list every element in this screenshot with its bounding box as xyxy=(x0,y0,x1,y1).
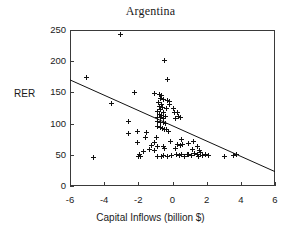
data-point xyxy=(173,146,178,151)
data-point xyxy=(162,58,167,63)
data-point xyxy=(166,129,171,134)
x-tick-label: 2 xyxy=(197,194,217,205)
data-point xyxy=(162,146,167,151)
x-tick-label: -2 xyxy=(128,194,148,205)
data-point xyxy=(91,155,96,160)
data-point xyxy=(109,101,114,106)
data-point xyxy=(185,152,190,157)
data-point xyxy=(180,142,185,147)
x-tick-label: 6 xyxy=(265,194,285,205)
data-point xyxy=(167,99,172,104)
y-tick-label: 50 xyxy=(38,149,66,160)
y-tick-label: 200 xyxy=(38,55,66,66)
x-tick-label: 0 xyxy=(163,194,183,205)
data-point xyxy=(126,131,131,136)
data-point xyxy=(137,152,142,157)
x-axis-label: Capital Inflows (billion $) xyxy=(0,212,301,223)
data-point xyxy=(206,153,211,158)
data-point xyxy=(84,75,89,80)
y-tick-label: 150 xyxy=(38,86,66,97)
data-point xyxy=(132,90,137,95)
data-point xyxy=(118,32,123,37)
scatter-plot-area xyxy=(70,30,275,186)
x-tick-label: -6 xyxy=(60,194,80,205)
data-point xyxy=(169,153,174,158)
x-tick-label: 4 xyxy=(231,194,251,205)
data-point xyxy=(135,140,140,145)
data-point xyxy=(152,148,157,153)
data-point xyxy=(168,139,173,144)
data-point xyxy=(165,77,170,82)
y-tick-label: 0 xyxy=(38,180,66,191)
chart-figure: Argentina RER Capital Inflows (billion $… xyxy=(0,0,301,239)
data-point xyxy=(135,129,140,134)
y-tick-label: 100 xyxy=(38,118,66,129)
x-tick-mark xyxy=(275,182,276,186)
y-axis-label: RER xyxy=(14,88,35,99)
chart-title: Argentina xyxy=(0,4,301,19)
data-point xyxy=(186,141,191,146)
y-tick-mark xyxy=(70,186,74,187)
data-point xyxy=(222,154,227,159)
data-point xyxy=(234,152,239,157)
data-point xyxy=(178,115,183,120)
x-tick-label: -4 xyxy=(94,194,114,205)
data-point xyxy=(143,135,148,140)
y-tick-label: 250 xyxy=(38,24,66,35)
data-point xyxy=(198,150,203,155)
data-point xyxy=(141,149,146,154)
data-point xyxy=(126,119,131,124)
